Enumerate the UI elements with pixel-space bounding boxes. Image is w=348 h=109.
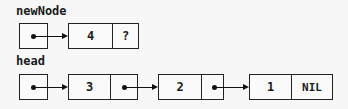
node-value-cell: 3 [68,74,111,100]
pointer-arrow-line [124,87,153,88]
node-value-cell: 1 [249,74,292,100]
newnode-label: newNode [16,4,67,18]
pointer-arrow-line [214,87,244,88]
newnode-next-cell: ? [112,23,139,49]
newnode-value-cell: 4 [68,23,113,49]
node-nil-cell: NIL [291,74,333,100]
head-label: head [16,54,45,68]
pointer-arrow-line [33,36,63,37]
node-value-cell: 2 [158,74,202,100]
pointer-arrow-line [33,87,63,88]
